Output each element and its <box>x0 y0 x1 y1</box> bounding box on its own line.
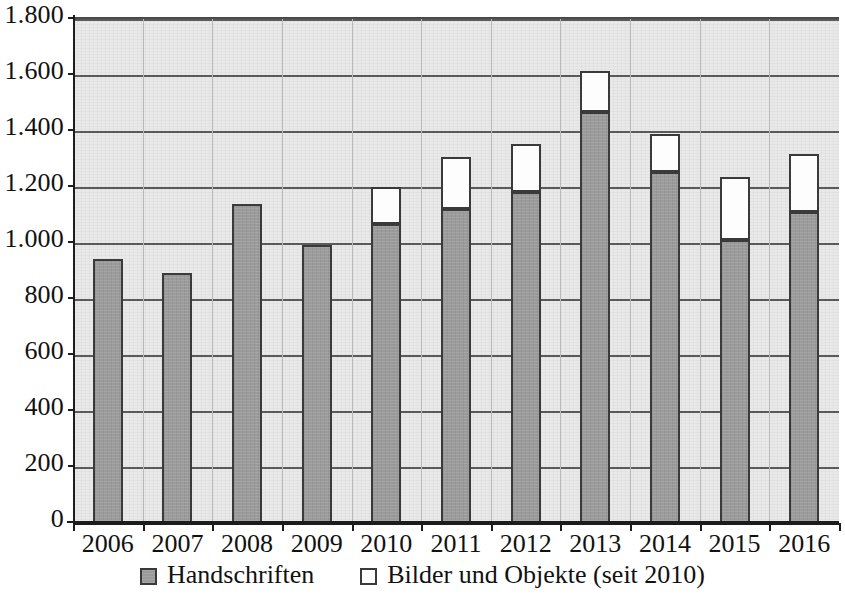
y-axis-tick <box>68 297 75 299</box>
bar-segment-handschriften <box>789 212 819 523</box>
bar-segment-handschriften <box>162 273 192 523</box>
bar-group <box>93 19 123 523</box>
bar-segment-handschriften <box>232 204 262 523</box>
x-axis <box>67 521 839 523</box>
legend-label-handschriften: Handschriften <box>167 560 314 590</box>
category-separator <box>700 19 701 523</box>
bar-group <box>789 19 819 523</box>
bar-segment-handschriften <box>371 224 401 523</box>
filled-gray-square-icon <box>140 568 157 585</box>
bar-group <box>371 19 401 523</box>
category-separator <box>491 19 492 523</box>
bar-segment-handschriften <box>441 209 471 523</box>
bar-group <box>511 19 541 523</box>
legend-item-bilder-und-objekte: Bilder und Objekte (seit 2010) <box>360 560 705 590</box>
y-axis-tick-label: 1.000 <box>5 224 65 254</box>
y-axis-tick-label: 800 <box>24 280 64 310</box>
category-separator <box>630 19 631 523</box>
bar-segment-handschriften <box>302 245 332 523</box>
y-axis <box>73 15 75 523</box>
category-separator <box>143 19 144 523</box>
chart-legend: Handschriften Bilder und Objekte (seit 2… <box>0 560 845 590</box>
bar-group <box>162 19 192 523</box>
bar-segment-bilder-und-objekte <box>720 177 750 240</box>
y-axis-tick-label: 600 <box>24 336 64 366</box>
bar-segment-handschriften <box>720 240 750 523</box>
y-axis-tick <box>68 465 75 467</box>
y-axis-tick-label: 1.400 <box>5 112 65 142</box>
legend-item-handschriften: Handschriften <box>140 560 314 590</box>
y-axis-tick-label: 1.600 <box>5 56 65 86</box>
baseline <box>73 523 839 525</box>
y-axis-tick <box>68 129 75 131</box>
category-separator <box>560 19 561 523</box>
stacked-bar-chart: 02004006008001.0001.2001.4001.6001.800 2… <box>0 0 845 596</box>
bar-segment-handschriften <box>650 172 680 523</box>
bar-segment-bilder-und-objekte <box>371 187 401 224</box>
y-axis-tick <box>68 353 75 355</box>
bar-group <box>441 19 471 523</box>
y-axis-tick-label: 400 <box>24 392 64 422</box>
y-axis-tick-label: 1.200 <box>5 168 65 198</box>
category-separator <box>282 19 283 523</box>
bar-group <box>650 19 680 523</box>
y-axis-tick-label: 1.800 <box>5 0 65 30</box>
legend-label-bilder-und-objekte: Bilder und Objekte (seit 2010) <box>387 560 705 590</box>
bar-segment-bilder-und-objekte <box>650 134 680 172</box>
y-axis-tick <box>68 185 75 187</box>
category-separator <box>352 19 353 523</box>
bar-group <box>302 19 332 523</box>
y-axis-tick <box>68 17 75 19</box>
bar-segment-bilder-und-objekte <box>580 71 610 112</box>
category-separator <box>212 19 213 523</box>
empty-white-square-icon <box>360 568 377 585</box>
y-axis-tick <box>68 73 75 75</box>
bar-segment-bilder-und-objekte <box>441 157 471 209</box>
plot-area <box>73 17 839 523</box>
bar-segment-bilder-und-objekte <box>511 144 541 192</box>
bar-group <box>232 19 262 523</box>
bar-group <box>720 19 750 523</box>
bar-segment-bilder-und-objekte <box>789 154 819 212</box>
category-separator <box>769 19 770 523</box>
y-axis-tick-label: 200 <box>24 448 64 478</box>
bar-group <box>580 19 610 523</box>
bar-segment-handschriften <box>511 192 541 523</box>
bar-segment-handschriften <box>580 112 610 523</box>
y-axis-tick <box>68 409 75 411</box>
y-axis-tick <box>68 241 75 243</box>
category-separator <box>421 19 422 523</box>
bar-segment-handschriften <box>93 259 123 523</box>
x-axis-tick-label: 2016 <box>749 529 845 559</box>
